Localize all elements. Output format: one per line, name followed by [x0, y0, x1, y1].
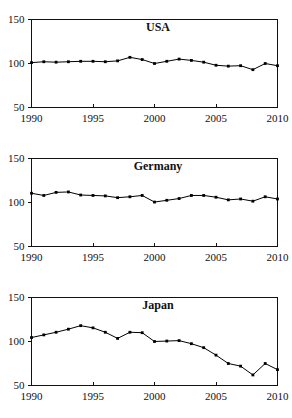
data-point-germany-1995	[92, 194, 95, 197]
x-tick-label-usa-2005: 2005	[205, 112, 228, 124]
y-tick-label-japan-100: 100	[8, 335, 25, 347]
series-line-japan	[32, 326, 278, 375]
data-point-usa-2006	[227, 65, 230, 68]
data-point-japan-2001	[165, 340, 168, 343]
data-point-germany-1993	[67, 191, 70, 194]
data-point-germany-1990	[30, 192, 33, 195]
data-point-japan-1994	[79, 324, 82, 327]
x-tick-label-germany-1995: 1995	[82, 251, 105, 263]
data-point-usa-2003	[190, 59, 193, 62]
data-point-usa-2009	[264, 62, 267, 65]
x-tick-label-usa-1995: 1995	[82, 112, 105, 124]
panel-title-japan: Japan	[142, 298, 174, 312]
data-point-germany-1997	[116, 196, 119, 199]
data-point-usa-2002	[178, 58, 181, 61]
data-point-usa-1995	[92, 60, 95, 63]
data-point-usa-2007	[239, 64, 242, 67]
data-point-japan-1996	[104, 331, 107, 334]
data-point-germany-2003	[190, 194, 193, 197]
data-point-usa-1990	[30, 61, 33, 64]
data-point-usa-1996	[104, 60, 107, 63]
data-point-japan-1993	[67, 328, 70, 331]
data-point-japan-1991	[42, 334, 45, 337]
data-point-usa-1992	[55, 61, 58, 64]
data-point-japan-2000	[153, 340, 156, 343]
data-point-usa-2004	[202, 61, 205, 64]
data-point-japan-2005	[215, 354, 218, 357]
data-point-japan-1992	[55, 331, 58, 334]
x-tick-label-usa-1990: 1990	[21, 112, 44, 124]
data-point-japan-2002	[178, 339, 181, 342]
x-tick-label-japan-2000: 2000	[144, 390, 167, 402]
data-point-germany-2009	[264, 195, 267, 198]
data-point-usa-1997	[116, 59, 119, 62]
data-point-japan-1990	[30, 336, 33, 339]
data-point-germany-2002	[178, 197, 181, 200]
x-tick-label-germany-2005: 2005	[205, 251, 228, 263]
x-tick-label-japan-1990: 1990	[21, 390, 44, 402]
three-panel-line-chart-figure: 5010015019901995200020052010USA 50100150…	[0, 0, 292, 418]
data-point-japan-2009	[264, 362, 267, 365]
y-tick-label-japan-150: 150	[8, 291, 25, 303]
data-point-usa-1998	[129, 56, 132, 59]
chart-svg-germany: 5010015019901995200020052010Germany	[0, 139, 292, 278]
data-point-germany-2000	[153, 201, 156, 204]
chart-svg-japan: 5010015019901995200020052010Japan	[0, 278, 292, 417]
data-point-germany-1996	[104, 195, 107, 198]
data-point-usa-2010	[276, 64, 279, 67]
data-point-germany-1992	[55, 191, 58, 194]
chart-svg-usa: 5010015019901995200020052010USA	[0, 0, 292, 139]
data-point-usa-2001	[165, 60, 168, 63]
data-point-germany-2004	[202, 194, 205, 197]
panel-title-germany: Germany	[134, 159, 183, 173]
x-tick-label-japan-2010: 2010	[267, 390, 290, 402]
data-point-usa-2000	[153, 62, 156, 65]
data-point-japan-2003	[190, 342, 193, 345]
chart-panel-usa: 5010015019901995200020052010USA	[0, 0, 292, 139]
y-tick-label-usa-150: 150	[8, 13, 25, 25]
data-point-japan-2004	[202, 346, 205, 349]
data-point-japan-1998	[129, 331, 132, 334]
data-point-germany-2006	[227, 198, 230, 201]
data-point-japan-2006	[227, 362, 230, 365]
data-point-japan-1999	[141, 331, 144, 334]
y-tick-label-germany-150: 150	[8, 152, 25, 164]
x-tick-label-germany-2000: 2000	[144, 251, 167, 263]
data-point-germany-1994	[79, 194, 82, 197]
data-point-japan-1997	[116, 337, 119, 340]
data-point-germany-1999	[141, 194, 144, 197]
data-point-usa-1999	[141, 58, 144, 61]
series-line-germany	[32, 192, 278, 202]
data-point-japan-2010	[276, 368, 279, 371]
data-point-germany-2008	[252, 200, 255, 203]
chart-panel-japan: 5010015019901995200020052010Japan	[0, 278, 292, 417]
data-point-japan-2008	[252, 374, 255, 377]
data-point-germany-1998	[129, 195, 132, 198]
data-point-japan-2007	[239, 365, 242, 368]
x-tick-label-germany-2010: 2010	[267, 251, 290, 263]
data-point-germany-2005	[215, 196, 218, 199]
data-point-germany-2007	[239, 198, 242, 201]
x-tick-label-usa-2010: 2010	[267, 112, 290, 124]
x-tick-label-japan-1995: 1995	[82, 390, 105, 402]
data-point-usa-1994	[79, 60, 82, 63]
x-tick-label-japan-2005: 2005	[205, 390, 228, 402]
x-tick-label-usa-2000: 2000	[144, 112, 167, 124]
y-tick-label-usa-100: 100	[8, 57, 25, 69]
data-point-usa-1991	[42, 60, 45, 63]
data-point-usa-2005	[215, 64, 218, 67]
panel-title-usa: USA	[146, 20, 170, 34]
data-point-germany-2010	[276, 198, 279, 201]
data-point-usa-2008	[252, 68, 255, 71]
data-point-germany-1991	[42, 194, 45, 197]
x-tick-label-germany-1990: 1990	[21, 251, 44, 263]
data-point-japan-1995	[92, 326, 95, 329]
chart-panel-germany: 5010015019901995200020052010Germany	[0, 139, 292, 278]
data-point-usa-1993	[67, 60, 70, 63]
y-tick-label-germany-100: 100	[8, 196, 25, 208]
data-point-germany-2001	[165, 199, 168, 202]
